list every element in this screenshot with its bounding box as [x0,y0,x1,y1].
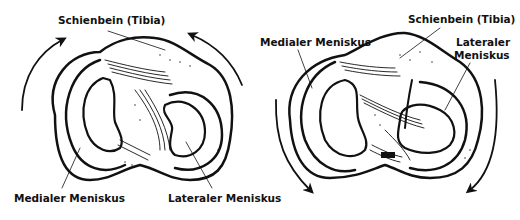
right-tibia-label: Schienbein (Tibia) [408,13,515,25]
rotation-arrow-icon [470,80,497,190]
left-knee-illustration [22,31,242,188]
rotation-arrow-icon [22,40,62,110]
left-tibia-label: Schienbein (Tibia) [58,14,165,26]
right-medial-meniscus-label: Medialer Meniskus [260,36,371,48]
right-lateral-meniscus-label-line1: Lateraler [456,36,510,48]
meniscus-diagram [0,0,520,220]
left-lateral-meniscus-label: Lateraler Meniskus [168,192,281,204]
right-lateral-meniscus-label-line2: Meniskus [454,49,510,61]
left-medial-meniscus-label: Medialer Meniskus [14,192,125,204]
